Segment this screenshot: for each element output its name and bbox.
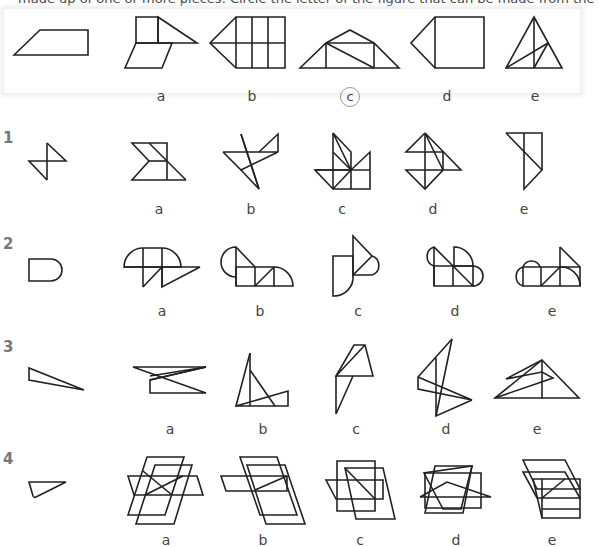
q1-label-e[interactable]: e <box>509 201 539 217</box>
q1-option-a[interactable] <box>132 143 186 180</box>
q3-option-c[interactable] <box>336 345 373 414</box>
q2-piece <box>29 259 62 281</box>
q4-option-b[interactable] <box>221 457 305 524</box>
q2-label-d[interactable]: d <box>440 303 470 319</box>
q4-option-c[interactable] <box>326 461 395 519</box>
q3-option-a[interactable] <box>133 367 206 393</box>
example-option-b[interactable] <box>210 17 285 68</box>
q3-option-d[interactable] <box>418 339 472 416</box>
q3-option-b[interactable] <box>236 353 288 406</box>
q2-label-e[interactable]: e <box>537 303 567 319</box>
example-option-e[interactable] <box>506 17 562 68</box>
q3-piece <box>29 368 84 390</box>
q4-label-a[interactable]: a <box>151 532 181 547</box>
answer-circle: c <box>340 87 360 107</box>
question-number-2: 2 <box>3 235 13 253</box>
q2-option-e[interactable] <box>516 247 580 286</box>
q1-label-c[interactable]: c <box>327 201 357 217</box>
example-option-d[interactable] <box>411 17 484 68</box>
q2-label-c[interactable]: c <box>343 303 373 319</box>
q3-label-b[interactable]: b <box>248 421 278 437</box>
example-label-a[interactable]: a <box>146 88 176 104</box>
q2-option-a[interactable] <box>124 248 200 287</box>
q1-piece <box>29 143 66 180</box>
q3-label-d[interactable]: d <box>431 421 461 437</box>
q4-label-c[interactable]: c <box>345 532 375 547</box>
q4-piece <box>29 482 66 497</box>
q4-option-d[interactable] <box>420 466 491 513</box>
q3-label-a[interactable]: a <box>155 421 185 437</box>
question-number-1: 1 <box>3 129 13 147</box>
q3-label-e[interactable]: e <box>522 421 552 437</box>
q1-option-e[interactable] <box>506 133 542 189</box>
question-number-3: 3 <box>3 338 13 356</box>
q1-label-b[interactable]: b <box>236 201 266 217</box>
q2-option-c[interactable] <box>333 236 379 296</box>
q1-label-a[interactable]: a <box>144 201 174 217</box>
example-label-d[interactable]: d <box>432 88 462 104</box>
q3-option-e[interactable] <box>495 360 579 398</box>
q4-label-b[interactable]: b <box>248 532 278 547</box>
example-label-c-circled[interactable]: c <box>335 87 365 107</box>
q2-option-b[interactable] <box>221 247 293 286</box>
q1-option-d[interactable] <box>406 133 461 189</box>
q2-label-a[interactable]: a <box>147 303 177 319</box>
example-piece <box>14 30 88 55</box>
example-option-c[interactable] <box>300 30 399 68</box>
q1-option-c[interactable] <box>315 133 370 189</box>
q4-option-e[interactable] <box>523 460 580 518</box>
example-label-e[interactable]: e <box>520 88 550 104</box>
example-option-a[interactable] <box>125 17 197 68</box>
q4-label-d[interactable]: d <box>441 532 471 547</box>
q4-label-e[interactable]: e <box>537 532 567 547</box>
q4-option-a[interactable] <box>128 457 203 524</box>
question-number-4: 4 <box>3 450 13 468</box>
example-label-b[interactable]: b <box>237 88 267 104</box>
q2-label-b[interactable]: b <box>245 303 275 319</box>
q3-label-c[interactable]: c <box>341 421 371 437</box>
q1-option-b[interactable] <box>223 134 278 189</box>
figures-canvas <box>0 0 599 547</box>
q1-label-d[interactable]: d <box>418 201 448 217</box>
q2-option-d[interactable] <box>427 247 483 286</box>
